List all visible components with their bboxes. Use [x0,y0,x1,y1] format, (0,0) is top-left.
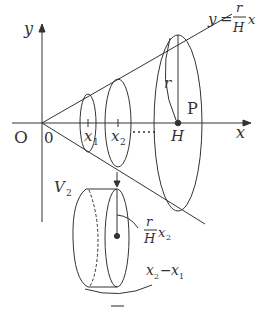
upper-cone-line [42,14,232,123]
thickness-sub-b: 1 [179,272,184,281]
cylinder-center [114,233,119,238]
eq-lhs: y [207,10,217,28]
x2-sub: 2 [120,137,126,147]
x1-sub: 1 [93,137,99,147]
V-sub: 2 [66,188,72,198]
cylinder-back-hidden [89,190,98,286]
x2-label: x [111,127,120,145]
P-label: P [187,99,198,118]
eq-sign: = [220,10,233,28]
cyl-radius-den: H [143,231,156,246]
y-label: y [23,19,34,38]
eq-den: H [232,20,245,35]
origin-O: O [14,127,28,147]
cyl-radius-var: x [158,225,166,240]
origin-zero: 0 [44,129,54,147]
thickness-sub-a: 2 [154,272,159,281]
y-axis-arrow-icon [39,24,45,32]
r-label: r [164,74,172,92]
cyl-radius-num: r [146,214,153,229]
cylinder-back [73,189,117,287]
cyl-radius-sub: 2 [166,233,171,242]
x-label: x [236,123,245,142]
eq-num: r [236,0,243,15]
down-arrow-icon [114,181,120,187]
cone-volume-diagram: y x O 0 y = r H x x 1 x 2 H P r V 2 r H … [0,0,258,309]
thickness-a: x [146,262,154,278]
x1-label: x [84,127,93,145]
H-point [175,120,181,126]
thickness-minus: − [160,262,172,278]
eq-var: x [248,12,256,27]
thickness-b: x [171,262,179,278]
H-label: H [170,127,185,145]
